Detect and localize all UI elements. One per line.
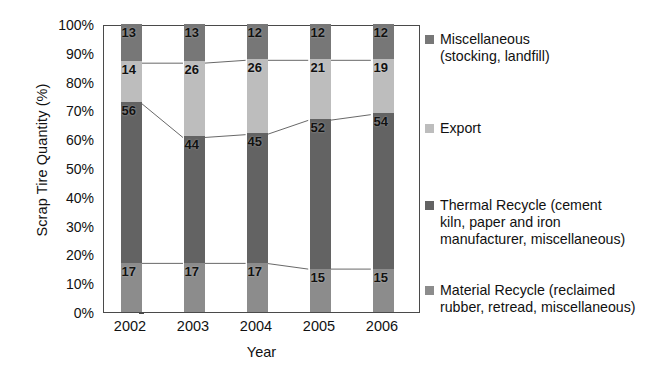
bar-segment-export-2003[interactable]: 26 <box>184 61 205 136</box>
connector-line <box>141 103 183 137</box>
y-axis-tickmark <box>139 313 144 314</box>
bar-segment-value-label: 12 <box>248 26 262 39</box>
bar-2006[interactable]: 15541912 <box>373 26 394 312</box>
legend-color-swatch <box>425 286 434 295</box>
bar-2002[interactable]: 17561413 <box>121 26 142 312</box>
bar-segment-material-recycle-2006[interactable]: 15 <box>373 269 394 312</box>
bar-segment-value-label: 12 <box>311 26 325 39</box>
connector-line <box>204 60 246 63</box>
legend-item-0[interactable]: Miscellaneous (stocking, landfill) <box>425 31 550 65</box>
y-axis-tick-label: 0% <box>46 306 94 320</box>
bar-segment-thermal-recycle-2004[interactable]: 45 <box>247 133 268 263</box>
bar-segment-value-label: 17 <box>248 265 262 278</box>
bar-2003[interactable]: 17442613 <box>184 26 205 312</box>
bar-segment-miscellaneous-2004[interactable]: 12 <box>247 24 268 59</box>
legend-item-2[interactable]: Thermal Recycle (cement kiln, paper and … <box>425 197 625 248</box>
bar-2004[interactable]: 17452612 <box>247 26 268 312</box>
bar-segment-value-label: 19 <box>374 61 388 74</box>
bar-segment-thermal-recycle-2002[interactable]: 56 <box>121 102 142 263</box>
y-axis-tick-label: 20% <box>46 248 94 262</box>
connector-line <box>266 120 308 134</box>
bar-segment-thermal-recycle-2006[interactable]: 54 <box>373 113 394 269</box>
y-axis-tick-label: 40% <box>46 191 94 205</box>
legend-item-label: Export <box>440 120 481 137</box>
bar-segment-value-label: 13 <box>185 26 199 39</box>
connector-line <box>204 135 246 138</box>
y-axis-tick-label: 70% <box>46 104 94 118</box>
legend-item-3[interactable]: Material Recycle (reclaimed rubber, retr… <box>425 282 636 316</box>
bar-segment-value-label: 21 <box>311 61 325 74</box>
y-axis-tick-label: 60% <box>46 133 94 147</box>
legend-color-swatch <box>425 201 434 210</box>
bar-segment-value-label: 17 <box>185 265 199 278</box>
y-axis-tick-label: 80% <box>46 76 94 90</box>
x-axis-tick-label-2004: 2004 <box>221 318 291 334</box>
bar-segment-value-label: 52 <box>311 121 325 134</box>
bar-segment-value-label: 26 <box>248 61 262 74</box>
bar-segment-value-label: 44 <box>185 138 199 151</box>
legend-item-label: Miscellaneous (stocking, landfill) <box>440 31 550 65</box>
x-axis-tick-label-2005: 2005 <box>284 318 354 334</box>
bar-segment-value-label: 54 <box>374 115 388 128</box>
x-axis-tick-label-2003: 2003 <box>158 318 228 334</box>
bar-segment-export-2002[interactable]: 14 <box>121 61 142 101</box>
connector-line <box>329 115 371 121</box>
bar-segment-value-label: 14 <box>122 63 136 76</box>
bar-segment-miscellaneous-2002[interactable]: 13 <box>121 24 142 61</box>
bar-segment-export-2005[interactable]: 21 <box>310 59 331 119</box>
bar-segment-material-recycle-2004[interactable]: 17 <box>247 263 268 312</box>
x-axis-title: Year <box>103 344 420 360</box>
chart-legend: Miscellaneous (stocking, landfill)Export… <box>420 25 665 313</box>
bar-segment-material-recycle-2002[interactable]: 17 <box>121 263 142 312</box>
y-axis-tick-label: 90% <box>46 47 94 61</box>
bar-segment-value-label: 15 <box>374 271 388 284</box>
bar-2005[interactable]: 15522112 <box>310 26 331 312</box>
bar-segment-miscellaneous-2003[interactable]: 13 <box>184 24 205 61</box>
connector-line <box>266 263 308 269</box>
y-axis-tick-label: 30% <box>46 220 94 234</box>
bar-segment-export-2006[interactable]: 19 <box>373 59 394 114</box>
y-axis-tick-label: 100% <box>46 18 94 32</box>
bar-segment-value-label: 17 <box>122 265 136 278</box>
bar-segment-miscellaneous-2005[interactable]: 12 <box>310 24 331 59</box>
legend-item-label: Thermal Recycle (cement kiln, paper and … <box>440 197 625 248</box>
bar-segment-value-label: 15 <box>311 271 325 284</box>
plot-area: 1756141317442613174526121552211215541912 <box>103 25 420 313</box>
y-axis-tick-label: 50% <box>46 162 94 176</box>
bar-segment-miscellaneous-2006[interactable]: 12 <box>373 24 394 59</box>
bar-segment-thermal-recycle-2003[interactable]: 44 <box>184 136 205 263</box>
y-axis-tick-labels: 100%90%80%70%60%50%40%30%20%10%0% <box>44 0 94 377</box>
legend-item-1[interactable]: Export <box>425 120 481 137</box>
bar-segment-value-label: 12 <box>374 26 388 39</box>
bar-segment-material-recycle-2005[interactable]: 15 <box>310 269 331 312</box>
bar-segment-value-label: 45 <box>248 135 262 148</box>
bar-segment-value-label: 56 <box>122 104 136 117</box>
legend-item-label: Material Recycle (reclaimed rubber, retr… <box>440 282 636 316</box>
bar-segment-value-label: 26 <box>185 63 199 76</box>
legend-color-swatch <box>425 124 434 133</box>
bar-segment-export-2004[interactable]: 26 <box>247 59 268 134</box>
x-axis-tick-label-2006: 2006 <box>347 318 417 334</box>
y-axis-tick-label: 10% <box>46 277 94 291</box>
bar-segment-thermal-recycle-2005[interactable]: 52 <box>310 119 331 269</box>
bar-segment-material-recycle-2003[interactable]: 17 <box>184 263 205 312</box>
bar-segment-value-label: 13 <box>122 26 136 39</box>
x-axis-tick-label-2002: 2002 <box>95 318 165 334</box>
stacked-bar-chart: Scrap Tire Quantity (%) 100%90%80%70%60%… <box>0 0 669 377</box>
legend-color-swatch <box>425 35 434 44</box>
